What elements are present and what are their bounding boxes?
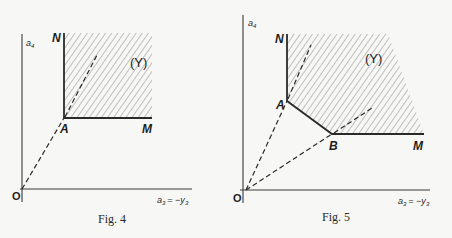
point-b-label: B [329, 139, 338, 153]
point-n-label: N [275, 32, 284, 46]
origin-label: O [12, 190, 21, 202]
point-m-label: M [413, 139, 424, 153]
point-m-label: M [142, 122, 153, 136]
point-n-label: N [52, 31, 61, 45]
region-y-label: (Y) [365, 51, 382, 66]
figure-caption: Fig. 5 [322, 210, 350, 224]
y-axis-label: a4 [26, 38, 35, 49]
dashed-ray-oa [22, 118, 64, 189]
x-axis-label: a3= −y3 [398, 196, 430, 207]
region-y-label: (Y) [130, 55, 147, 70]
y-axis-label: a4 [248, 18, 257, 29]
feasible-region-y [64, 33, 152, 118]
x-axis-label: a3= −y3 [157, 195, 189, 206]
origin-label: O [233, 192, 242, 204]
point-a-label: A [275, 98, 285, 112]
figure-5: a4 N A B M (Y) O a3= −y3 Fig. 5 [233, 15, 430, 224]
figure-caption: Fig. 4 [98, 212, 126, 226]
point-a-label: A [59, 122, 69, 136]
figure-4: a4 N A M (Y) O a3= −y3 Fig. 4 [12, 31, 192, 226]
dashed-ray-ob [246, 134, 332, 190]
